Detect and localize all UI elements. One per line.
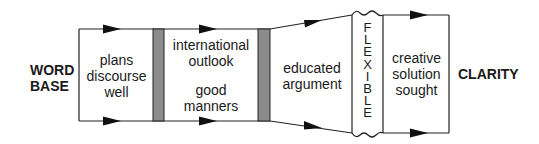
stage-text-line: educated: [272, 60, 352, 76]
stage-text-line: plans: [80, 52, 153, 68]
arrow-right-icon: [199, 25, 217, 34]
stage-international-text: international outlook: [164, 37, 258, 69]
stage-text-line: argument: [272, 76, 352, 92]
stage-text-line: manners: [164, 98, 258, 114]
start-label-line: WORD: [30, 62, 74, 78]
start-label-line: BASE: [30, 78, 74, 94]
separator-bar-1: [153, 29, 164, 121]
start-label: WORD BASE: [30, 62, 74, 94]
bottom-rail: [79, 121, 449, 133]
arrow-right-icon: [199, 117, 217, 126]
stage-text-line: good: [164, 82, 258, 98]
stage-text-line: sought: [384, 82, 449, 98]
stage-text-line: well: [80, 84, 153, 100]
stage-plans-text: plans discourse well: [80, 52, 153, 100]
stage-educated-text: educated argument: [272, 60, 352, 92]
flexible-letter: E: [352, 107, 383, 119]
arrow-right-icon: [103, 117, 121, 126]
arrow-right-icon: [410, 11, 428, 20]
arrow-right-icon: [103, 25, 121, 34]
stage-text-line: outlook: [164, 53, 258, 69]
stage-creative-text: creative solution sought: [384, 50, 449, 98]
stage-text-line: creative: [384, 50, 449, 66]
stage-text-line: solution: [384, 66, 449, 82]
stage-text-line: international: [164, 37, 258, 53]
top-rail: [79, 15, 449, 29]
stage-manners-text: good manners: [164, 82, 258, 114]
stage-flexible-text: F L E X I B L E: [352, 22, 383, 120]
separator-bar-2: [258, 29, 270, 121]
stage-text-line: discourse: [80, 68, 153, 84]
end-label: CLARITY: [458, 66, 519, 82]
arrow-right-icon: [410, 129, 428, 138]
arrow-right-icon: [304, 20, 322, 28]
